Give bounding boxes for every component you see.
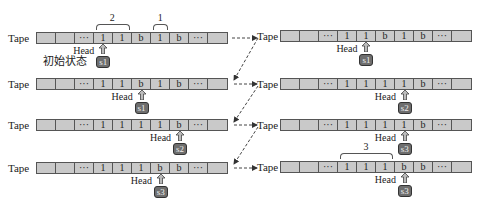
transition-arrows: [0, 0, 481, 213]
